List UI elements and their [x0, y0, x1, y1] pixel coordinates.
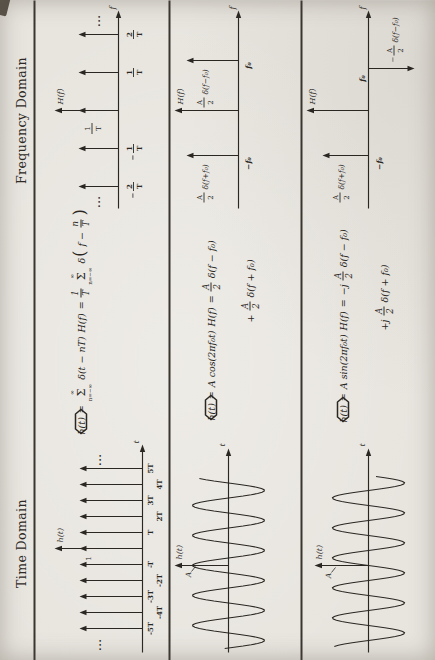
svg-text:2: 2 — [124, 31, 133, 36]
ht-axis-label: h(t) — [174, 544, 183, 559]
equation-cosine-line2: + A 2 δ(f + f₀) — [240, 259, 260, 322]
scan-artifact — [0, 0, 10, 16]
ht-axis-label: h(t) — [314, 544, 323, 559]
Hf-axis-label: H(f) — [55, 88, 64, 105]
t-axis-label: t — [357, 442, 366, 446]
f-axis: f — [227, 4, 241, 208]
eq-H-lhs: H(f) — [75, 313, 86, 332]
transform-pair-icon — [74, 408, 87, 434]
Hf-axis-label: H(f) — [175, 88, 184, 105]
ht-axis: h(t) — [54, 527, 142, 550]
svg-text:T: T — [134, 145, 143, 151]
Hf-axis: H(f) — [54, 88, 118, 113]
ht-axis: h(t) — [174, 544, 228, 567]
svg-text:δ(f−f₀): δ(f−f₀) — [390, 17, 399, 42]
equation-sine: h(t) = A sin(2πf₀t) H(f) = −j A 2 δ(f − … — [333, 229, 353, 422]
fraction-A-over-2: A 2 — [333, 271, 353, 280]
equation-sine-line2: +j A 2 δ(f + f₀) — [374, 264, 394, 330]
freq-tick-labels: − 2 T − 1 T 1 T 2 T — [124, 30, 143, 198]
svg-text:−: − — [388, 56, 396, 62]
transform-pair-icon — [336, 396, 349, 422]
svg-text:f₀: f₀ — [357, 74, 366, 82]
Hf-axis-label: H(f) — [307, 88, 316, 105]
impulse-neg-f0: A 2 δ(f+f₀) −f₀ — [186, 152, 252, 202]
svg-text:1: 1 — [124, 145, 133, 150]
eq-rhs: δ(t − nT) — [75, 336, 86, 379]
sine-freq-plot: f H(f) A 2 δ(f+f₀) −f₀ f₀ − A 2 δ(f−f₀) — [302, 0, 435, 222]
impulse-pos-f0-down: f₀ − A 2 δ(f−f₀) — [357, 17, 414, 83]
svg-text:2: 2 — [206, 100, 214, 104]
Hf-axis: H(f) — [306, 88, 368, 113]
ellipsis-left: ··· — [93, 195, 103, 207]
svg-text:2: 2 — [342, 195, 350, 199]
impulse-neg-f0-up: A 2 δ(f+f₀) −f₀ — [322, 152, 383, 202]
svg-text:1: 1 — [83, 126, 91, 130]
svg-text:δ(f+f₀): δ(f+f₀) — [336, 164, 345, 189]
transform-pairs-figure: Time Domain Frequency Domain t h(t) — [0, 0, 435, 660]
svg-text:A: A — [331, 194, 339, 201]
svg-text:−f₀: −f₀ — [374, 156, 383, 170]
cosine-freq-plot: f H(f) A 2 δ(f+f₀) −f₀ A 2 δ(f−f₀) f₀ — [170, 0, 298, 222]
f-axis: f — [357, 4, 371, 208]
svg-text:f₀: f₀ — [243, 61, 252, 69]
svg-text:T: T — [134, 31, 143, 37]
fraction-n-over-T: n T — [70, 219, 90, 227]
summation: ∞ Σ n=−∞ — [68, 383, 92, 400]
fraction-A-over-2: A 2 — [201, 282, 221, 291]
impulse-pos-f0: A 2 δ(f−f₀) f₀ — [186, 57, 252, 107]
svg-text:A: A — [385, 47, 393, 54]
f-axis-label: f — [227, 4, 236, 10]
impulse-height-label: 1 — [84, 556, 92, 560]
t-axis: t — [217, 442, 231, 652]
impulse-train-time-plot: t h(t) 1 ··· ··· -5T -4T -3T -2T — [36, 430, 168, 660]
svg-text:−f₀: −f₀ — [243, 156, 252, 170]
time-domain-heading: Time Domain — [13, 478, 28, 608]
svg-text:T: T — [134, 183, 143, 189]
summation: ∞ Σ n=−∞ — [68, 267, 92, 284]
svg-text:−: − — [127, 192, 136, 198]
svg-text:-3T: -3T — [145, 589, 154, 603]
svg-text:T: T — [134, 69, 143, 75]
time-tick-labels: -5T -4T -3T -2T -T T 2T 3T 4T 5T — [145, 462, 163, 634]
fraction-A-over-2: A 2 — [240, 301, 260, 310]
svg-text:3T: 3T — [145, 494, 154, 505]
f-axis-label: f — [107, 4, 116, 10]
row-divider-2 — [300, 0, 302, 660]
amplitude-label-1-over-T: 1 T — [83, 123, 102, 134]
svg-text:-4T: -4T — [154, 605, 163, 619]
svg-text:δ(f−f₀): δ(f−f₀) — [200, 69, 209, 94]
fraction-1-over-T: 1 T — [70, 288, 90, 296]
equation-impulse-train: h(t) = ∞ Σ n=−∞ δ(t − nT) H(f) = 1 T ∞ Σ… — [68, 209, 92, 434]
svg-text:-2T: -2T — [154, 573, 163, 587]
svg-text:1: 1 — [124, 69, 133, 74]
svg-text:δ(f+f₀): δ(f+f₀) — [200, 164, 209, 189]
svg-text:A: A — [195, 99, 203, 106]
sine-time-plot: t h(t) A — [302, 430, 435, 660]
amplitude-A-label: A — [183, 571, 192, 578]
cosine-time-plot: t h(t) A — [170, 430, 298, 660]
equation-cosine: h(t) = A cos(2πf₀t) H(f) = A 2 δ(f − f₀) — [201, 240, 221, 420]
t-axis-label: t — [217, 442, 226, 446]
svg-text:2: 2 — [124, 183, 133, 188]
ellipsis-right: ··· — [94, 453, 104, 465]
amplitude-leader — [331, 567, 335, 572]
ht-axis-label: h(t) — [55, 527, 64, 542]
f-axis-label: f — [357, 4, 366, 10]
svg-text:2: 2 — [396, 48, 404, 52]
svg-text:-T: -T — [145, 560, 154, 568]
svg-text:2T: 2T — [154, 510, 163, 521]
svg-text:−: − — [127, 154, 136, 160]
t-axis: t — [357, 442, 371, 652]
impulse-train-freq-plot: f H(f) 1 T ··· ··· − 2 T − 1 — [36, 0, 168, 222]
svg-text:T: T — [94, 125, 102, 130]
ellipsis-left: ··· — [94, 638, 104, 650]
t-axis: t — [131, 439, 145, 652]
svg-text:T: T — [145, 529, 154, 535]
svg-text:5T: 5T — [145, 462, 154, 473]
frequency-domain-heading: Frequency Domain — [13, 35, 28, 205]
svg-text:A: A — [195, 194, 203, 201]
svg-text:4T: 4T — [154, 478, 163, 489]
t-axis-label: t — [131, 439, 140, 443]
transform-pair-icon — [204, 394, 217, 420]
fraction-A-over-2: A 2 — [374, 306, 394, 315]
